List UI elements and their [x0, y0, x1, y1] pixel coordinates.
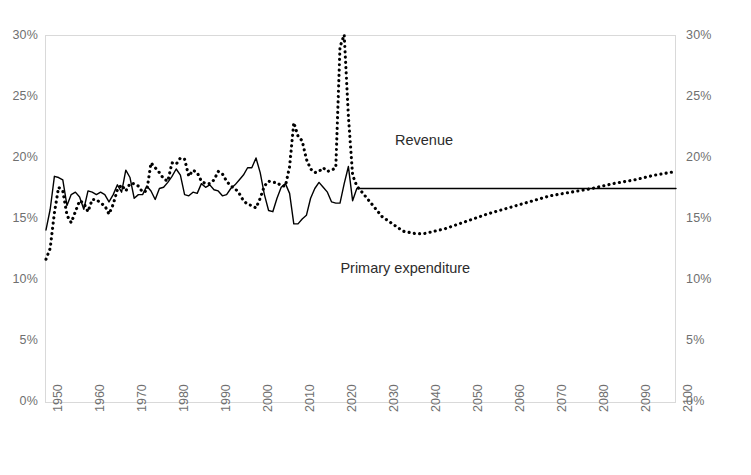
series-annotation-primary-expenditure: Primary expenditure [340, 260, 470, 276]
x-tick-label-1950: 1950 [51, 384, 65, 412]
x-tick-label-2010: 2010 [303, 384, 317, 412]
y-tick-label-left-30pct: 30% [0, 28, 38, 42]
y-tick-label-left-10pct: 10% [0, 272, 38, 286]
x-tick-label-2060: 2060 [513, 384, 527, 412]
y-tick-label-left-0pct: 0% [0, 394, 38, 408]
y-tick-label-right-15pct: 15% [686, 211, 736, 225]
x-tick-label-2080: 2080 [597, 384, 611, 412]
x-tick-label-1960: 1960 [93, 384, 107, 412]
y-tick-label-left-5pct: 5% [0, 333, 38, 347]
y-tick-label-right-25pct: 25% [686, 89, 736, 103]
x-tick-label-2050: 2050 [471, 384, 485, 412]
x-tick-label-2020: 2020 [345, 384, 359, 412]
x-tick-label-1980: 1980 [177, 384, 191, 412]
x-tick-label-1990: 1990 [219, 384, 233, 412]
x-tick-label-2000: 2000 [261, 384, 275, 412]
y-tick-label-right-20pct: 20% [686, 150, 736, 164]
x-tick-label-1970: 1970 [135, 384, 149, 412]
y-tick-label-right-10pct: 10% [686, 272, 736, 286]
series-annotation-revenue: Revenue [395, 132, 453, 148]
x-tick-label-2100: 2100 [681, 384, 695, 412]
plot-area-border [46, 36, 676, 403]
x-tick-label-2070: 2070 [555, 384, 569, 412]
chart-container: 0%5%10%15%20%25%30% 0%5%10%15%20%25%30% … [0, 0, 751, 475]
y-tick-label-right-5pct: 5% [686, 333, 736, 347]
x-tick-label-2090: 2090 [639, 384, 653, 412]
y-tick-label-left-25pct: 25% [0, 89, 38, 103]
y-tick-label-right-30pct: 30% [686, 28, 736, 42]
x-tick-label-2040: 2040 [429, 384, 443, 412]
x-tick-label-2030: 2030 [387, 384, 401, 412]
y-tick-label-left-20pct: 20% [0, 150, 38, 164]
y-tick-label-left-15pct: 15% [0, 211, 38, 225]
